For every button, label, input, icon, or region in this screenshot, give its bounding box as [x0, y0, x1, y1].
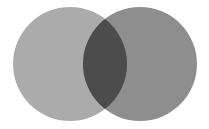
venn-diagram-canvas: [0, 0, 209, 129]
venn-diagram-svg: [0, 0, 209, 129]
